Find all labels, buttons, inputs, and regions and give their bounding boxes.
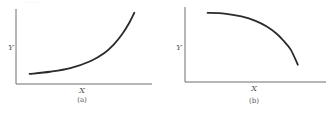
series-line [208, 13, 298, 65]
figure: ……… Y X (a) Y X (b) [0, 0, 331, 114]
x-axis-label: X [78, 86, 85, 95]
panel-a: Y X (a) [8, 9, 152, 104]
y-axis-label: Y [176, 43, 182, 52]
x-axis-label: X [250, 84, 257, 93]
cut-off-caption-fragment: ……… [26, 0, 41, 4]
panel-caption: (a) [77, 96, 87, 104]
panel-caption: (b) [249, 97, 259, 105]
panel-b: Y X (b) [176, 7, 326, 105]
y-axis-label: Y [8, 43, 14, 52]
series-line [30, 13, 135, 74]
